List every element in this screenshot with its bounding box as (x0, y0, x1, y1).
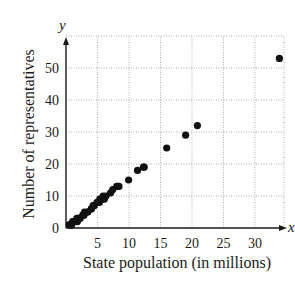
x-tick-label: 15 (154, 236, 168, 251)
x-tick-label: 20 (185, 236, 199, 251)
data-point (182, 132, 189, 139)
x-tick-label: 5 (94, 236, 101, 251)
data-point (141, 164, 148, 171)
y-tick-label: 20 (45, 157, 59, 172)
data-point (115, 183, 122, 190)
y-axis-variable: y (57, 17, 66, 33)
data-point (125, 176, 132, 183)
x-tick-label: 30 (248, 236, 262, 251)
x-tick-labels: 51015202530 (94, 236, 262, 251)
data-points (66, 55, 284, 229)
scatter-chart: 51015202530 01020304050 x y State popula… (0, 0, 295, 294)
y-tick-labels: 01020304050 (45, 61, 59, 236)
x-tick-label: 10 (122, 236, 136, 251)
data-point (194, 122, 201, 129)
y-tick-label: 0 (52, 221, 59, 236)
y-tick-label: 40 (45, 93, 59, 108)
y-tick-label: 10 (45, 189, 59, 204)
x-axis-title: State population (in millions) (83, 254, 271, 272)
x-tick-label: 25 (217, 236, 231, 251)
x-axis-arrow-icon (279, 225, 287, 231)
y-axis-arrow-icon (63, 37, 69, 45)
data-point (276, 55, 283, 62)
y-tick-label: 50 (45, 61, 59, 76)
y-tick-label: 30 (45, 125, 59, 140)
y-axis-title: Number of representatives (20, 49, 38, 219)
x-axis-variable: x (287, 219, 295, 235)
data-point (163, 144, 170, 151)
